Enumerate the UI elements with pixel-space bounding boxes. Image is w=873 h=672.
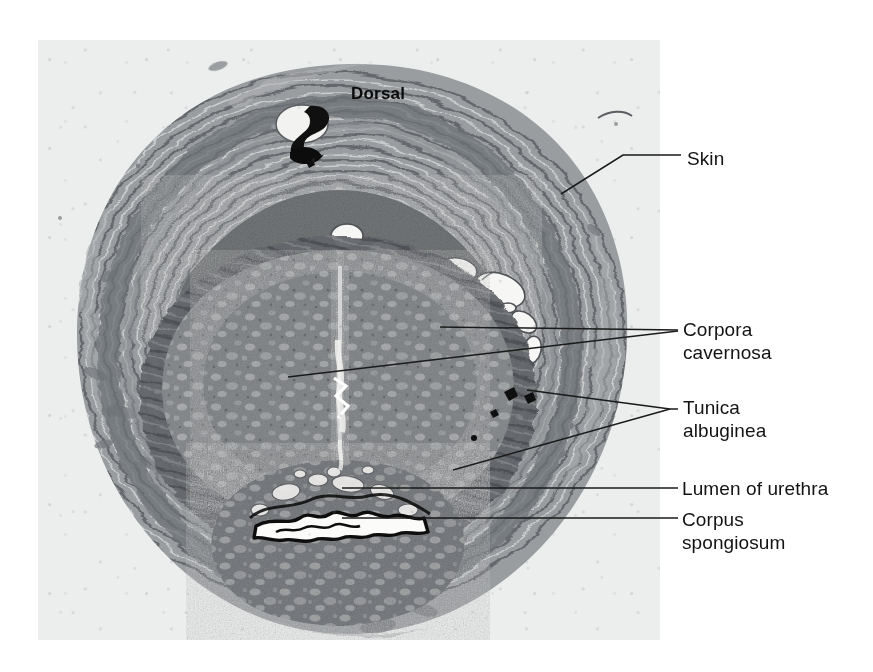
- label-corpus-spongiosum: Corpus spongiosum: [682, 508, 785, 554]
- figure-root: Dorsal Ventral Skin Corpora cavernosa Tu…: [0, 0, 873, 672]
- label-tunica-albuginea: Tunica albuginea: [683, 396, 766, 442]
- micrograph-panel: Dorsal Ventral: [38, 40, 660, 640]
- orientation-label-dorsal: Dorsal: [351, 84, 405, 104]
- label-lumen-of-urethra: Lumen of urethra: [682, 477, 828, 500]
- histology-section: [38, 40, 660, 640]
- label-skin: Skin: [687, 147, 724, 170]
- label-corpora-cavernosa: Corpora cavernosa: [683, 318, 772, 364]
